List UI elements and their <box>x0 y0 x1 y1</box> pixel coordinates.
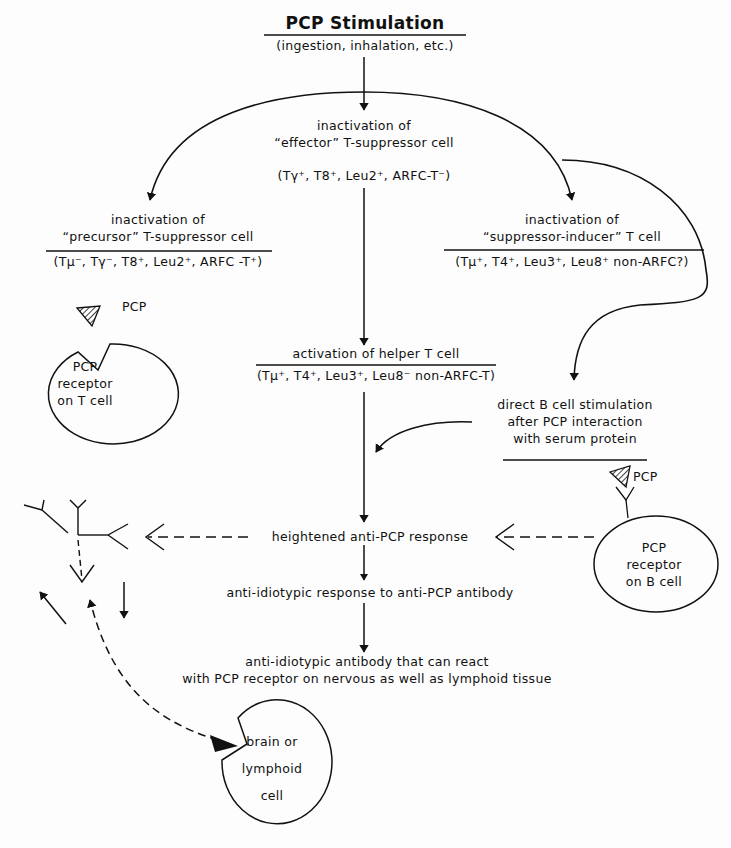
precursor-line2: “precursor” T-suppressor cell <box>62 229 253 245</box>
anti-idiotypic-antibody-line2: with PCP receptor on nervous as well as … <box>182 671 551 687</box>
t-cell-label-line1: PCP <box>73 358 98 375</box>
title-main: PCP Stimulation <box>286 12 445 34</box>
b-cell-receptor-stem <box>626 500 628 518</box>
suppressor-inducer-line2: “suppressor-inducer” T cell <box>483 229 661 245</box>
t-cell-label-line3: on T cell <box>57 392 112 409</box>
precursor-markers: (Tμ⁻, Tγ⁻, T8⁺, Leu2⁺, ARFC -T⁺) <box>54 254 263 270</box>
solid-arrowhead-into-brain <box>210 735 238 752</box>
anti-idiotypic-antibody-line1: anti-idiotypic antibody that can react <box>245 654 489 670</box>
arrow-b-stim-to-center <box>376 422 472 452</box>
effector-line1: inactivation of <box>317 118 411 134</box>
b-cell-pcp-wedge <box>610 466 630 487</box>
title-subtitle: (ingestion, inhalation, etc.) <box>276 38 453 54</box>
t-cell-label-line2: receptor <box>57 375 112 392</box>
heightened-response: heightened anti-PCP response <box>272 529 468 545</box>
b-stim-line1: direct B cell stimulation <box>497 397 652 413</box>
arrow-up-left <box>40 592 66 624</box>
precursor-line1: inactivation of <box>111 212 205 228</box>
helper-markers: (Tμ⁺, T4⁺, Leu3⁺, Leu8⁻ non-ARFC-T) <box>257 368 495 384</box>
b-stim-line2: after PCP interaction <box>507 414 642 430</box>
anti-idiotypic-response: anti-idiotypic response to anti-PCP anti… <box>226 585 513 601</box>
b-cell-ligand-label: PCP <box>633 468 658 485</box>
brain-cell-label-line2: lymphoid <box>242 760 302 777</box>
arrow-to-b-cell-stimulation <box>562 160 707 380</box>
dashed-curve-brain-to-antibody <box>90 600 218 740</box>
brain-cell-label-line3: cell <box>261 787 284 804</box>
pcp-immune-diagram: PCP Stimulation (ingestion, inhalation, … <box>0 0 731 848</box>
helper-line1: activation of helper T cell <box>293 346 460 362</box>
effector-markers: (Tγ⁺, T8⁺, Leu2⁺, ARFC-T⁻) <box>278 168 451 184</box>
suppressor-inducer-line1: inactivation of <box>525 212 619 228</box>
b-cell-label-line3: on B cell <box>626 573 682 590</box>
suppressor-inducer-markers: (Tμ⁺, T4⁺, Leu3⁺, Leu8⁺ non-ARFC?) <box>455 254 688 270</box>
b-stim-line3: with serum protein <box>513 431 637 447</box>
brain-cell-label-line1: brain or <box>246 733 297 750</box>
t-cell-ligand-label: PCP <box>122 298 147 315</box>
b-cell-receptor-y <box>616 487 634 500</box>
t-cell-pcp-wedge <box>77 306 100 326</box>
effector-line2: “effector” T-suppressor cell <box>274 135 454 151</box>
b-cell-label-line2: receptor <box>626 556 681 573</box>
b-cell-label-line1: PCP <box>642 539 667 556</box>
antibody-graphic <box>24 500 128 582</box>
